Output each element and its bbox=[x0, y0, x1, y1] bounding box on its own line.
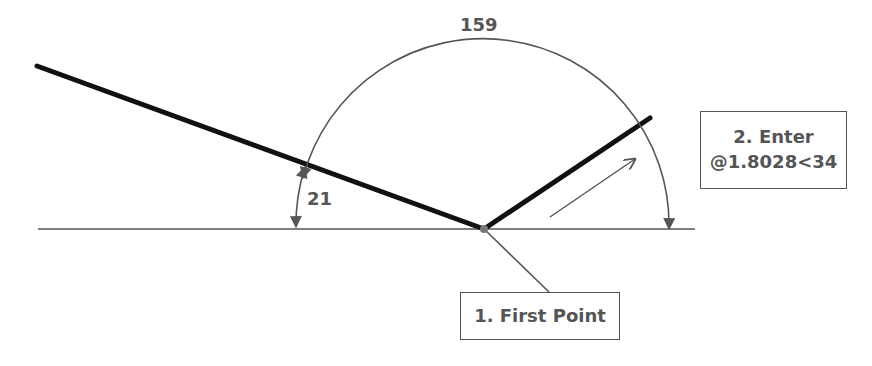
vertex-point bbox=[480, 225, 488, 233]
leader-line bbox=[484, 229, 549, 292]
new-line bbox=[484, 118, 650, 229]
direction-arrow bbox=[550, 159, 635, 217]
angle-label-21: 21 bbox=[307, 188, 332, 209]
callout-enter-coordinates: 2. Enter @1.8028<34 bbox=[700, 111, 847, 189]
callout-first-point: 1. First Point bbox=[460, 292, 620, 340]
callout-enter-line1: 2. Enter bbox=[701, 124, 846, 149]
callout-first-point-text: 1. First Point bbox=[474, 305, 606, 326]
angle-label-159: 159 bbox=[460, 14, 498, 35]
angle-arc-159 bbox=[303, 39, 669, 229]
existing-line bbox=[37, 66, 484, 229]
callout-enter-line2: @1.8028<34 bbox=[701, 149, 846, 174]
